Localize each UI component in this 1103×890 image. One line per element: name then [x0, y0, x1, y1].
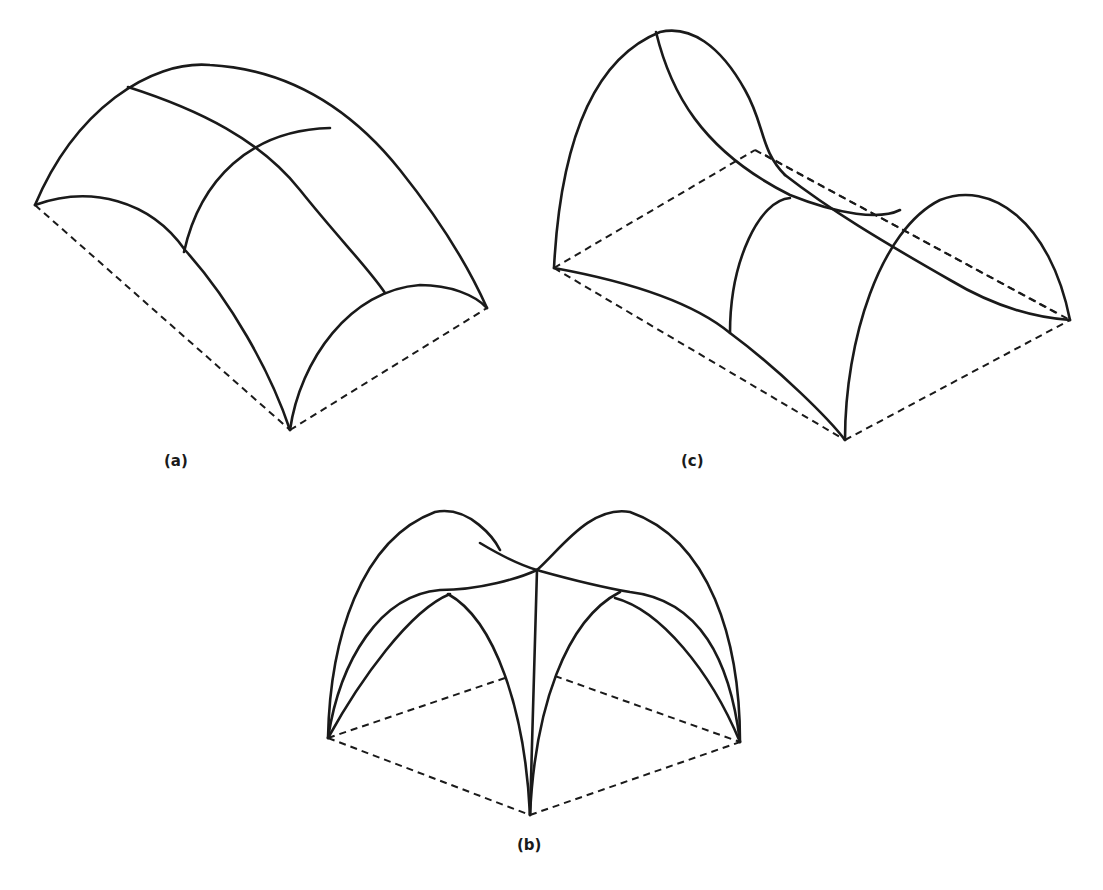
figure-b-base-front-left [328, 738, 530, 815]
figure-b-base-back-left [328, 678, 505, 738]
figure-b-left-front-arch [448, 594, 530, 815]
vault-diagrams [0, 0, 1103, 890]
figure-b-top-twist [480, 543, 537, 570]
figure-b-right-front-arch [530, 592, 620, 815]
figure-c-saddle-vault [554, 31, 1070, 440]
figure-b-left-inner-arch [328, 570, 537, 738]
figure-b-label: (b) [517, 836, 541, 854]
figure-b-right-diagonal-rib [615, 598, 740, 742]
figure-c-base-front-right [845, 320, 1070, 440]
figure-b-left-outer-arch [328, 511, 500, 738]
figure-a-back-arch [290, 285, 487, 430]
figure-c-base-back-left [554, 150, 755, 268]
figure-b-right-outer-arch [537, 511, 740, 742]
figure-c-right-arch [845, 195, 1070, 440]
figure-a-base-right-edge [290, 308, 487, 430]
figure-c-left-tall-arch [554, 31, 785, 268]
figure-c-label: (c) [681, 452, 704, 470]
figure-b-right-inner-arch [537, 570, 740, 742]
figure-b-cross-vault [328, 511, 740, 815]
figure-c-base-front-left [554, 268, 845, 440]
figure-c-base-diagonal [765, 155, 1060, 315]
figure-b-base-front-right [530, 742, 740, 815]
figure-a-base-left-edge [35, 205, 290, 430]
figure-c-back-edge [785, 175, 1070, 320]
figure-a-label: (a) [164, 452, 188, 470]
figure-a-barrel-vault [35, 65, 487, 430]
figure-a-transverse-arch [184, 128, 330, 252]
figure-c-inner-arch [730, 198, 790, 333]
figure-a-top-ridge-arch [35, 65, 487, 308]
